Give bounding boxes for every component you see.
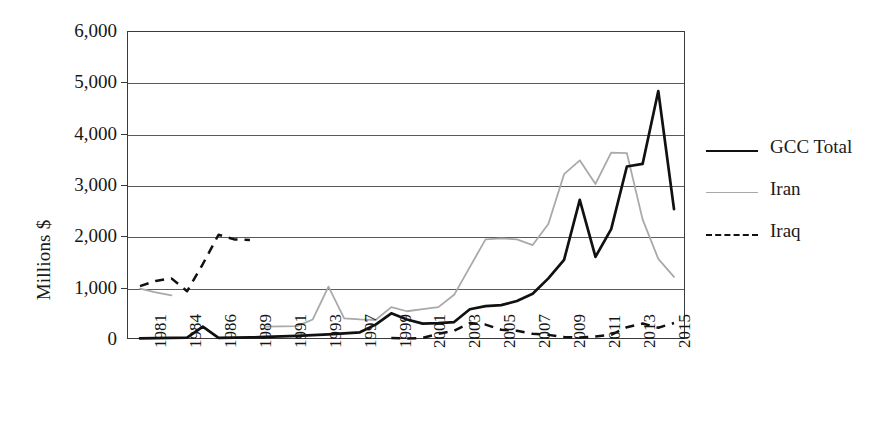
x-axis-tick-label-1984: 1984 — [187, 314, 204, 348]
legend-label-iran: Iran — [770, 179, 801, 199]
chart-container: Millions $ 01,0002,0003,0004,0005,0006,0… — [0, 0, 879, 423]
x-axis-tick-label-1989: 1989 — [257, 314, 274, 348]
x-axis-tick-label-1993: 1993 — [327, 314, 344, 348]
x-axis-tick-label-2015: 2015 — [676, 314, 693, 348]
x-axis-tick-label-1981: 1981 — [152, 314, 169, 348]
y-axis-tick-label-4000: 4,000 — [31, 124, 117, 143]
y-axis-tick-label-1000: 1,000 — [31, 278, 117, 297]
series-line-iran — [140, 153, 674, 327]
x-axis-tick-label-2009: 2009 — [571, 314, 588, 348]
x-axis-tick-label-2011: 2011 — [606, 315, 623, 348]
series-layer — [128, 32, 686, 340]
x-axis-tick-label-1999: 1999 — [397, 314, 414, 348]
legend-swatch-thin-icon — [706, 192, 758, 205]
x-axis-tick-label-2007: 2007 — [536, 314, 553, 348]
x-axis-tick-label-1986: 1986 — [222, 314, 239, 348]
legend-label-gcc-total: GCC Total — [770, 137, 852, 157]
x-axis-tick-label-2003: 2003 — [466, 314, 483, 348]
y-axis-tick-label-2000: 2,000 — [31, 226, 117, 245]
legend-item-gcc-total: GCC Total — [706, 135, 876, 177]
x-axis-tick-label-1991: 1991 — [292, 314, 309, 348]
x-axis-tick-label-2005: 2005 — [501, 314, 518, 348]
y-axis-tick-label-3000: 3,000 — [31, 175, 117, 194]
legend-item-iraq: Iraq — [706, 219, 876, 261]
legend: GCC Total Iran Iraq — [706, 135, 876, 261]
y-axis-tick-label-5000: 5,000 — [31, 72, 117, 91]
x-axis-tick-label-2001: 2001 — [431, 314, 448, 348]
x-axis-tick-label-2013: 2013 — [641, 314, 658, 348]
x-axis-tick-label-1997: 1997 — [362, 314, 379, 348]
y-axis-tick-label-6000: 6,000 — [31, 21, 117, 40]
legend-item-iran: Iran — [706, 177, 876, 219]
plot-area — [127, 31, 685, 339]
series-line-gcc-total — [140, 91, 674, 338]
legend-swatch-dashed-icon — [706, 234, 758, 248]
y-axis-title: Millions $ — [32, 170, 56, 350]
y-axis-tick-label-0: 0 — [31, 329, 117, 348]
legend-label-iraq: Iraq — [770, 221, 801, 241]
legend-swatch-solid-icon — [706, 150, 758, 164]
